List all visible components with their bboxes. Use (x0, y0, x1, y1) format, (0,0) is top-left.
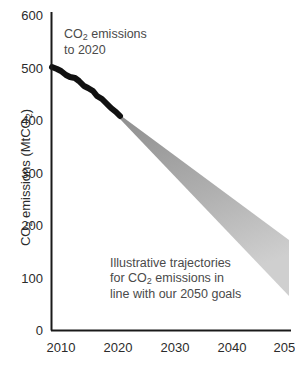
historical-emissions-line (52, 67, 120, 116)
x-tick-2050: 2050 (264, 340, 295, 355)
chart-canvas (0, 0, 295, 368)
y-tick-200: 200 (3, 218, 43, 233)
annotation-projection-line-2: for CO2 emissions in (110, 271, 241, 287)
annotation-historical-line-1: CO2 emissions (64, 27, 147, 43)
x-tick-2020: 2020 (94, 340, 142, 355)
x-tick-2010: 2010 (37, 340, 85, 355)
annotation-projection-line-1: Illustrative trajectories (110, 256, 241, 271)
y-tick-400: 400 (3, 113, 43, 128)
y-tick-0: 0 (3, 323, 43, 338)
annotation-projection-line-3: line with our 2050 goals (110, 287, 241, 302)
annotation-projection-label: Illustrative trajectories for CO2 emissi… (110, 256, 241, 302)
y-tick-300: 300 (3, 166, 43, 181)
x-tick-2030: 2030 (151, 340, 199, 355)
co2-emissions-chart: CO2 emissions (MtCO2) 600 500 400 300 20… (0, 0, 295, 368)
x-tick-2040: 2040 (208, 340, 256, 355)
y-tick-100: 100 (3, 271, 43, 286)
y-tick-600: 600 (3, 8, 43, 23)
y-tick-500: 500 (3, 61, 43, 76)
annotation-historical-line-2: to 2020 (64, 43, 147, 58)
annotation-historical-label: CO2 emissions to 2020 (64, 27, 147, 58)
